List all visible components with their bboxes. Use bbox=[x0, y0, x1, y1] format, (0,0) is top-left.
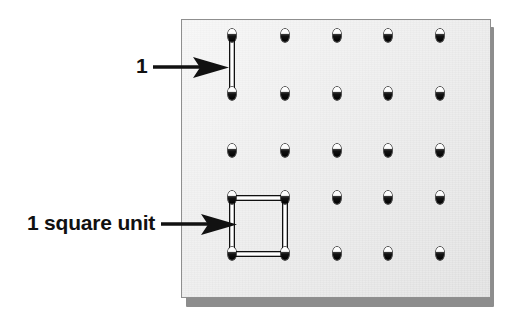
peg-r3-c1 bbox=[228, 144, 236, 157]
peg-r4-c5 bbox=[436, 191, 444, 204]
peg-r2-c4 bbox=[384, 87, 392, 100]
peg-r1-c3 bbox=[333, 29, 341, 42]
peg-r2-c1 bbox=[228, 87, 236, 100]
peg-r5-c4 bbox=[384, 247, 392, 260]
peg-r2-c5 bbox=[436, 87, 444, 100]
peg-r1-c5 bbox=[436, 29, 444, 42]
peg-r4-c4 bbox=[384, 191, 392, 204]
peg-r4-c2 bbox=[281, 191, 289, 204]
unit-length-arrow-icon bbox=[151, 55, 231, 79]
peg-r5-c1 bbox=[228, 247, 236, 260]
peg-r3-c3 bbox=[333, 144, 341, 157]
peg-r5-c2 bbox=[281, 247, 289, 260]
peg-r1-c2 bbox=[281, 29, 289, 42]
peg-r3-c4 bbox=[384, 144, 392, 157]
peg-r4-c1 bbox=[228, 191, 236, 204]
figure-canvas: 1 1 square unit Geoboard with unit lengt… bbox=[0, 0, 529, 327]
peg-r4-c3 bbox=[333, 191, 341, 204]
peg-r1-c1 bbox=[228, 29, 236, 42]
peg-r2-c2 bbox=[281, 87, 289, 100]
unit-area-label: 1 square unit bbox=[27, 211, 155, 235]
peg-r5-c3 bbox=[333, 247, 341, 260]
peg-r5-c5 bbox=[436, 247, 444, 260]
peg-r3-c5 bbox=[436, 144, 444, 157]
figure-title: Geoboard with unit length and unit squar… bbox=[0, 0, 1, 1]
peg-r3-c2 bbox=[281, 144, 289, 157]
peg-r1-c4 bbox=[384, 29, 392, 42]
unit-length-label: 1 bbox=[136, 54, 147, 78]
peg-r2-c3 bbox=[333, 87, 341, 100]
unit-area-arrow-icon bbox=[159, 212, 239, 236]
